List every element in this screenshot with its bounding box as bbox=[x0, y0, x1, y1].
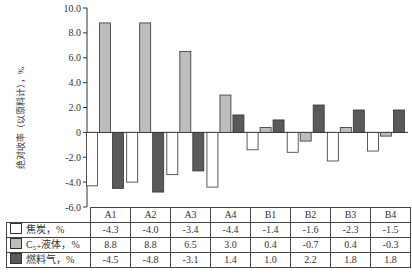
legend-swatch-icon bbox=[10, 238, 22, 249]
table-cell: -3.4 bbox=[171, 223, 211, 238]
bar-B4-0 bbox=[367, 132, 378, 151]
bar-B1-2 bbox=[273, 120, 284, 132]
table-header-cell: A3 bbox=[171, 208, 211, 223]
y-tick-label: 8.0 bbox=[69, 27, 82, 38]
legend-swatch-icon bbox=[10, 223, 22, 234]
bar-B4-2 bbox=[393, 110, 404, 132]
bar-A2-2 bbox=[153, 132, 164, 192]
table-cell: -4.3 bbox=[91, 223, 131, 238]
y-tick-label: -4.0 bbox=[65, 177, 81, 188]
legend-swatch-icon bbox=[10, 253, 22, 264]
bar-A3-0 bbox=[167, 132, 178, 174]
table-cell: -4.0 bbox=[131, 223, 171, 238]
table-cell: 1.8 bbox=[371, 253, 411, 268]
table-header-cell: A4 bbox=[211, 208, 251, 223]
bar-B4-1 bbox=[380, 132, 391, 136]
table-cell: 0.4 bbox=[251, 238, 291, 253]
bar-B1-1 bbox=[260, 127, 271, 132]
table-cell: -3.1 bbox=[171, 253, 211, 268]
bar-A3-2 bbox=[193, 132, 204, 171]
table-cell: 3.0 bbox=[211, 238, 251, 253]
table-cell: -1.4 bbox=[251, 223, 291, 238]
table-row: 燃料气，%-4.5-4.8-3.11.41.02.21.81.8 bbox=[7, 253, 411, 268]
y-tick-label: 4.0 bbox=[69, 77, 82, 88]
table-header-cell: A1 bbox=[91, 208, 131, 223]
table-cell: -0.7 bbox=[291, 238, 331, 253]
bar-A4-0 bbox=[207, 132, 218, 187]
y-tick-label: 10.0 bbox=[64, 3, 82, 14]
y-tick-label: 2.0 bbox=[69, 102, 82, 113]
table-cell: -4.8 bbox=[131, 253, 171, 268]
y-tick-label: -2.0 bbox=[65, 152, 81, 163]
table-cell: -2.3 bbox=[331, 223, 371, 238]
bar-B1-0 bbox=[247, 132, 258, 149]
legend-label: 焦炭，% bbox=[7, 223, 91, 238]
table-cell: 1.0 bbox=[251, 253, 291, 268]
table-cell: 8.8 bbox=[91, 238, 131, 253]
bar-A2-0 bbox=[127, 132, 138, 182]
bar-B2-2 bbox=[313, 105, 324, 132]
table-cell: 2.2 bbox=[291, 253, 331, 268]
bar-A4-2 bbox=[233, 115, 244, 132]
table-cell: 6.5 bbox=[171, 238, 211, 253]
table-cell: -0.3 bbox=[371, 238, 411, 253]
bar-B2-1 bbox=[300, 132, 311, 141]
table-row: 焦炭，%-4.3-4.0-3.4-4.4-1.4-1.6-2.3-1.5 bbox=[7, 223, 411, 238]
table-cell: -4.4 bbox=[211, 223, 251, 238]
data-table: A1A2A3A4B1B2B3B4焦炭，%-4.3-4.0-3.4-4.4-1.4… bbox=[6, 207, 411, 268]
bar-B3-0 bbox=[327, 132, 338, 161]
y-tick-label: 6.0 bbox=[69, 52, 82, 63]
bar-B3-2 bbox=[353, 110, 364, 132]
table-corner bbox=[7, 208, 91, 223]
table-cell: -4.5 bbox=[91, 253, 131, 268]
bar-A2-1 bbox=[140, 23, 151, 132]
table-cell: 1.4 bbox=[211, 253, 251, 268]
y-axis-label: 绝对收率（以原料计），% bbox=[15, 66, 26, 169]
table-cell: 1.8 bbox=[331, 253, 371, 268]
legend-label: 燃料气，% bbox=[7, 253, 91, 268]
bar-A1-0 bbox=[87, 132, 98, 185]
table-header-cell: B2 bbox=[291, 208, 331, 223]
bar-A1-1 bbox=[100, 23, 111, 132]
bar-A1-2 bbox=[113, 132, 124, 188]
table-header-cell: B1 bbox=[251, 208, 291, 223]
bars bbox=[87, 23, 405, 192]
table-cell: -1.5 bbox=[371, 223, 411, 238]
bar-B2-0 bbox=[287, 132, 298, 152]
table-cell: -1.6 bbox=[291, 223, 331, 238]
table-header-row: A1A2A3A4B1B2B3B4 bbox=[7, 208, 411, 223]
table-header-cell: B3 bbox=[331, 208, 371, 223]
table-header-cell: A2 bbox=[131, 208, 171, 223]
legend-label: C₅₊液体，% bbox=[7, 238, 91, 253]
y-tick-label: 0 bbox=[76, 127, 81, 138]
table-cell: 0.4 bbox=[331, 238, 371, 253]
bar-A4-1 bbox=[220, 95, 231, 132]
table-cell: 8.8 bbox=[131, 238, 171, 253]
bar-B3-1 bbox=[340, 127, 351, 132]
table-row: C₅₊液体，%8.88.86.53.00.4-0.70.4-0.3 bbox=[7, 238, 411, 253]
bar-A3-1 bbox=[180, 52, 191, 133]
table-header-cell: B4 bbox=[371, 208, 411, 223]
